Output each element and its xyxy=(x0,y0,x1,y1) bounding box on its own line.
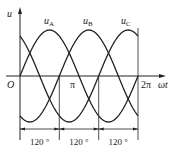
x-axis-label: ωt xyxy=(158,79,168,90)
curve-label-uA: uA xyxy=(44,15,54,28)
interval-arrows xyxy=(20,128,138,131)
y-axis-arrow-icon xyxy=(18,7,22,14)
axes xyxy=(6,7,166,140)
origin-label: O xyxy=(7,79,14,90)
three-phase-diagram: u O π 2π ωt uA uB uC 120 ° 120 ° 120 ° xyxy=(0,0,175,155)
tick-label-pi: π xyxy=(70,79,75,90)
interval-label-2: 120 ° xyxy=(69,137,89,147)
tick-label-2pi: 2π xyxy=(141,79,151,90)
y-axis-label: u xyxy=(7,8,12,19)
x-axis-arrow-icon xyxy=(159,74,166,78)
curve-label-uB: uB xyxy=(83,15,93,28)
interval-label-1: 120 ° xyxy=(30,137,50,147)
interval-label-3: 120 ° xyxy=(109,137,129,147)
curve-label-uC: uC xyxy=(121,15,131,28)
